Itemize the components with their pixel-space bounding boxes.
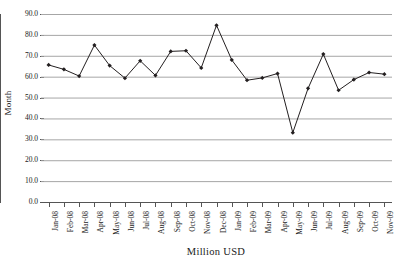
- y-tick-label: 60.0: [25, 73, 38, 81]
- data-point-marker: [291, 131, 295, 135]
- x-tick-mark: [339, 203, 340, 207]
- x-tick-mark: [262, 203, 263, 207]
- x-tick-mark: [79, 203, 80, 207]
- data-point-marker: [321, 52, 325, 56]
- x-tick-mark: [155, 203, 156, 207]
- x-tick-mark: [232, 203, 233, 207]
- y-tick-label: 0.0: [29, 198, 38, 206]
- x-tick-mark: [354, 203, 355, 207]
- x-tick-label: Aug-09: [342, 211, 350, 234]
- x-tick-mark: [293, 203, 294, 207]
- data-point-marker: [62, 67, 66, 71]
- x-tick-label: May-08: [113, 211, 121, 235]
- x-tick-label: Sep-09: [357, 211, 365, 232]
- x-tick-mark: [171, 203, 172, 207]
- x-tick-label: Aug-08: [158, 211, 166, 234]
- y-tick-label: 90.0: [25, 10, 38, 18]
- y-tick-label: 50.0: [25, 94, 38, 102]
- y-axis-title-text: Month: [2, 90, 12, 115]
- x-tick-mark: [323, 203, 324, 207]
- y-axis-title: Month: [0, 0, 14, 205]
- y-tick-label: 20.0: [25, 156, 38, 164]
- x-tick-label: Nov-08: [204, 211, 212, 234]
- x-tick-label: Oct-09: [372, 211, 380, 232]
- y-axis-line: [0, 14, 1, 203]
- y-tick-label: 70.0: [25, 52, 38, 60]
- x-tick-mark: [186, 203, 187, 207]
- x-tick-label: Jul-09: [326, 211, 334, 230]
- x-tick-label: May-09: [296, 211, 304, 235]
- y-axis-tick-labels: 90.080.070.060.050.040.030.020.010.00.0: [14, 0, 40, 205]
- x-tick-label: Apr-09: [281, 211, 289, 233]
- x-tick-mark: [384, 203, 385, 207]
- x-tick-label: Jan-09: [235, 211, 243, 231]
- x-tick-mark: [125, 203, 126, 207]
- line-chart: Month 90.080.070.060.050.040.030.020.010…: [0, 0, 395, 268]
- x-tick-mark: [247, 203, 248, 207]
- data-point-marker: [306, 86, 310, 90]
- x-tick-mark: [217, 203, 218, 207]
- y-tick-label: 80.0: [25, 31, 38, 39]
- y-tick-label: 30.0: [25, 136, 38, 144]
- x-tick-mark: [278, 203, 279, 207]
- y-tick-label: 10.0: [25, 177, 38, 185]
- x-tick-label: Mar-09: [265, 211, 273, 233]
- x-tick-label: Dec-08: [220, 211, 228, 233]
- x-axis-title: Million USD: [40, 246, 392, 257]
- x-tick-mark: [369, 203, 370, 207]
- x-tick-label: Oct-08: [189, 211, 197, 232]
- data-point-marker: [367, 70, 371, 74]
- plot-area: [41, 14, 392, 202]
- x-tick-label: Sep-08: [174, 211, 182, 232]
- x-tick-mark: [140, 203, 141, 207]
- x-tick-mark: [64, 203, 65, 207]
- x-tick-label: Jun-09: [311, 211, 319, 231]
- x-tick-mark: [201, 203, 202, 207]
- x-tick-label: Mar-08: [82, 211, 90, 233]
- data-point-marker: [260, 76, 264, 80]
- x-axis-tick-labels: Jan-08Feb-08Mar-08Apr-08May-08Jun-08Jul-…: [41, 203, 392, 247]
- data-point-marker: [275, 71, 279, 75]
- x-tick-label: Feb-08: [67, 211, 75, 232]
- x-tick-label: Nov-09: [387, 211, 395, 234]
- x-tick-label: Feb-09: [250, 211, 258, 232]
- data-point-marker: [382, 72, 386, 76]
- x-tick-label: Jun-08: [128, 211, 136, 231]
- x-tick-mark: [49, 203, 50, 207]
- x-tick-label: Jul-08: [143, 211, 151, 230]
- y-tick-label: 40.0: [25, 115, 38, 123]
- x-tick-mark: [110, 203, 111, 207]
- x-tick-label: Apr-08: [97, 211, 105, 233]
- data-point-marker: [214, 23, 218, 27]
- x-tick-mark: [94, 203, 95, 207]
- data-series-svg: [41, 14, 392, 202]
- series-line: [49, 25, 385, 132]
- data-point-marker: [47, 63, 51, 67]
- x-tick-label: Jan-08: [52, 211, 60, 231]
- x-tick-mark: [308, 203, 309, 207]
